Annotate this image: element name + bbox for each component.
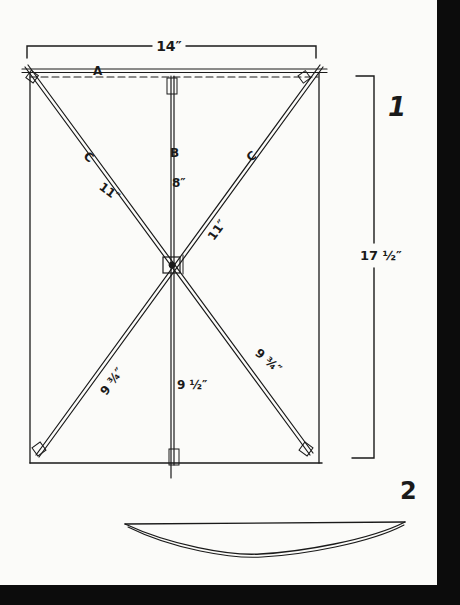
stick-c-left	[25, 65, 313, 456]
lower-left-length: 9 ¾″	[97, 364, 127, 397]
stick-a-label: A	[93, 64, 103, 78]
height-label: 17 ½″	[360, 248, 402, 263]
lower-vertical-length: 9 ½″	[177, 378, 208, 392]
height-dimension-bracket	[352, 76, 374, 458]
stick-c-right	[32, 65, 323, 457]
bow-profile	[125, 522, 405, 557]
upper-left-length: 11″	[96, 180, 123, 205]
lower-right-length: 9 ¾″	[252, 346, 285, 377]
width-label: 14″	[156, 38, 182, 54]
upper-vertical-length: 8″	[172, 176, 186, 190]
figure-number-2: 2	[400, 477, 417, 505]
figure-number-1: 1	[388, 92, 406, 122]
center-joint	[163, 255, 183, 274]
stick-b	[167, 76, 179, 478]
stick-c-left-label: C	[81, 149, 97, 166]
upper-right-length: 11″	[205, 216, 230, 243]
kite-frame-diagram: 14″ 17 ½″ 1 2 A B C C 11″ 11″ 8″ 9 ¾″ 9 …	[0, 0, 460, 605]
stick-b-label: B	[170, 146, 179, 160]
